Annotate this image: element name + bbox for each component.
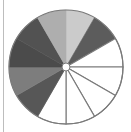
fraction-circle (0, 0, 131, 132)
center-hole (62, 63, 70, 71)
